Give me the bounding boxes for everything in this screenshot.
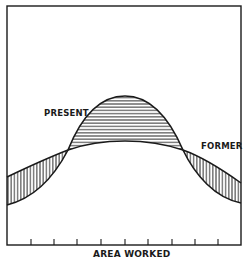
distribution-diagram	[0, 0, 244, 260]
former-label: FORMER	[201, 141, 243, 151]
present-excess-region	[68, 96, 183, 150]
present-label: PRESENT	[44, 108, 89, 118]
x-axis-ticks	[31, 239, 218, 245]
former-excess-region-left	[7, 150, 68, 205]
x-axis-label: AREA WORKED	[93, 249, 170, 259]
